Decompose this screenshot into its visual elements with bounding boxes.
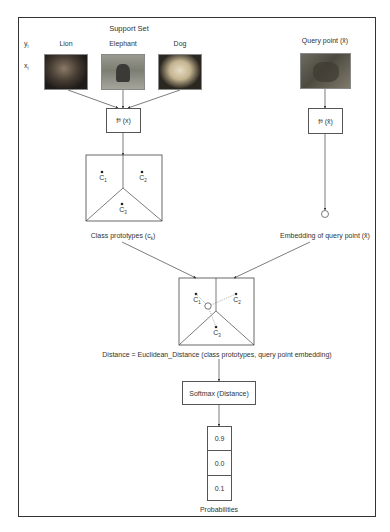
probability-cell: 0.9 xyxy=(207,426,232,451)
probability-cell: 0.0 xyxy=(207,451,232,476)
support-set-title: Support Set xyxy=(109,24,149,33)
dog-photo xyxy=(158,54,202,90)
query-embedding-caption: Embedding of query point (x̂) xyxy=(280,232,370,239)
y-row-label: yi xyxy=(24,40,29,49)
lion-photo xyxy=(44,54,88,90)
embedding-function-query: fθ (x̂) xyxy=(308,108,343,134)
prototype-c3-label: C3 xyxy=(119,206,127,215)
distance-c2-label: C2 xyxy=(233,296,241,305)
class-label-elephant: Elephant xyxy=(109,40,137,47)
probabilities-caption: Probabilities xyxy=(200,506,238,513)
x-row-label: xi xyxy=(24,62,29,71)
softmax-box: Softmax (Distance) xyxy=(182,381,256,405)
query-embedding-point xyxy=(322,211,329,218)
elephant-photo xyxy=(101,54,145,90)
probability-cell: 0.1 xyxy=(207,476,232,501)
class-label-dog: Dog xyxy=(174,40,187,47)
class-label-lion: Lion xyxy=(59,40,72,47)
distance-caption: Distance = Euclidean_Distance (class pro… xyxy=(102,351,331,358)
embedding-function-support: fθ (x) xyxy=(106,108,141,133)
query-point-title: Query point (x̂) xyxy=(302,37,348,44)
class-prototypes-caption: Class prototypes (ck) xyxy=(91,232,156,241)
prototype-c1-label: C1 xyxy=(99,174,107,183)
lion-query-photo xyxy=(300,53,351,89)
prototype-c2-label: C2 xyxy=(139,174,147,183)
distance-c1-label: C1 xyxy=(193,296,201,305)
distance-c3-label: C3 xyxy=(213,329,221,338)
